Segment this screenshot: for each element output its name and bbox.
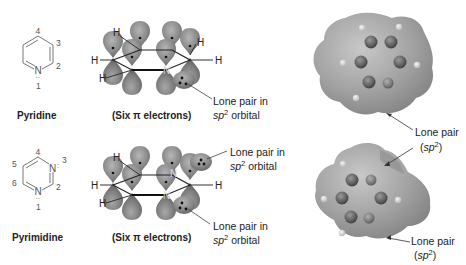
bond	[23, 184, 34, 190]
lone-pair-dots: ··	[36, 195, 41, 202]
position-1-label: 1	[36, 81, 41, 91]
hydrogen-label: H	[197, 37, 204, 48]
position-6-label: 6	[12, 178, 17, 188]
pyridine-caption: Pyridine	[17, 110, 57, 121]
nitrogen-3-label: N	[49, 163, 56, 174]
bond	[23, 63, 34, 69]
lone-pair-dots: ··	[36, 74, 41, 81]
pyrimidine-structure: N : N ·· 1 2 3 4 5 6	[12, 147, 67, 212]
double-bond-inner	[26, 40, 38, 47]
hydrogen-label: H	[215, 180, 222, 191]
pyrimidine-epm-callout: Lone pair	[411, 235, 455, 247]
position-2-label: 2	[56, 61, 61, 71]
callout-arrow	[388, 114, 413, 130]
pyridine-orbital-callout: Lone pair in	[213, 95, 268, 107]
callout-line	[188, 209, 210, 224]
position-4-label: 4	[36, 26, 41, 36]
pyridine-orbital-callout-line2: sp2 orbital	[213, 108, 260, 121]
pyrimidine-epm-callout-line2: (sp2)	[414, 248, 436, 261]
hydrogen-label: H	[99, 73, 106, 84]
sp2-lone-pair-lobe	[190, 153, 212, 171]
hydrogen-label: H	[91, 55, 98, 66]
position-5-label: 5	[12, 159, 17, 169]
pyrimidine-potential-map	[315, 143, 430, 242]
nitrogen-label: N	[163, 65, 170, 76]
pyridine-structure: N ·· 1 2 3 4	[23, 26, 61, 91]
bond	[38, 36, 53, 45]
pyrimidine-orbital-callout-top-line2: sp2 orbital	[230, 159, 277, 172]
pyridine-epm-callout-line2: (sp2)	[420, 140, 442, 153]
pyrimidine-orbital-caption: (Six π electrons)	[112, 232, 191, 243]
callout-arrow	[388, 238, 410, 242]
position-4-label: 4	[36, 147, 41, 157]
pyrimidine-orbital-callout-bottom-line2: sp2 orbital	[213, 233, 260, 246]
pyridine-potential-map	[314, 13, 433, 130]
position-2-label: 2	[56, 182, 61, 192]
nitrogen-label: N	[170, 168, 177, 179]
pyrimidine-orbital-diagram: H H H H N N	[91, 146, 227, 224]
hydrogen-label: H	[215, 55, 222, 66]
pyridine-orbital-diagram: H H H H H N	[91, 21, 222, 99]
position-1-label: 1	[36, 202, 41, 212]
pyridine-epm-callout: Lone pair	[415, 126, 459, 138]
position-3-label: 3	[62, 155, 67, 165]
lone-pair-dots: :	[57, 162, 59, 169]
bond	[38, 157, 49, 164]
p-orbital-lobe	[156, 39, 176, 66]
callout-line	[207, 151, 227, 159]
hydrogen-label: H	[91, 180, 98, 191]
pyrimidine-orbital-callout-bottom: Lone pair in	[213, 220, 268, 232]
hydrogen-label: H	[99, 198, 106, 209]
nitrogen-label: N	[163, 190, 170, 201]
callout-line	[188, 84, 212, 99]
double-bond-inner	[26, 161, 38, 168]
position-3-label: 3	[56, 38, 61, 48]
pyridine-orbital-caption: (Six π electrons)	[112, 110, 191, 121]
pyrimidine-caption: Pyrimidine	[12, 232, 64, 243]
pyrimidine-orbital-callout-top: Lone pair in	[230, 146, 285, 158]
hydrogen-label: H	[113, 152, 120, 163]
hydrogen-label: H	[113, 27, 120, 38]
bond	[42, 63, 53, 69]
bond	[23, 157, 38, 166]
bond	[23, 36, 38, 45]
figure-canvas: N ·· 1 2 3 4 Pyridine	[0, 0, 466, 265]
bond	[42, 184, 53, 190]
potential-surface	[315, 143, 430, 238]
